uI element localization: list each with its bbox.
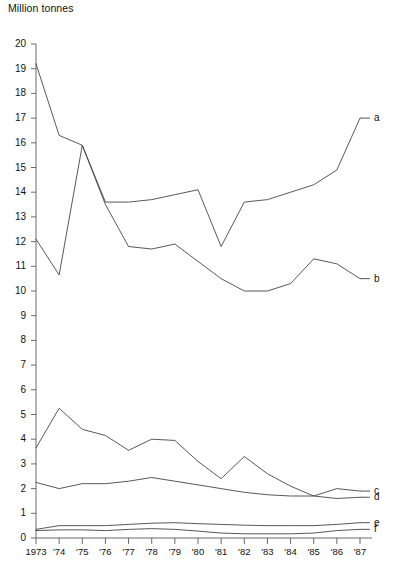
y-tick-label: 0	[4, 533, 26, 543]
y-tick-label: 15	[4, 163, 26, 173]
x-tick-label: '76	[99, 547, 111, 557]
series-line-f	[36, 529, 360, 534]
y-tick-label: 18	[4, 88, 26, 98]
x-tick-label: '84	[284, 547, 296, 557]
line-chart: Million tonnes 0123456789101112131415161…	[0, 0, 396, 571]
plot-area	[0, 0, 396, 571]
x-tick-label: 1973	[25, 547, 46, 557]
series-line-a	[36, 64, 360, 247]
series-label-b: b	[374, 274, 380, 284]
y-tick-label: 7	[4, 360, 26, 370]
y-tick-label: 20	[4, 39, 26, 49]
y-tick-label: 9	[4, 311, 26, 321]
y-tick-label: 19	[4, 64, 26, 74]
y-tick-label: 8	[4, 335, 26, 345]
series-line-c	[36, 408, 360, 496]
y-tick-label: 12	[4, 237, 26, 247]
x-tick-label: '81	[215, 547, 227, 557]
y-tick-label: 3	[4, 459, 26, 469]
y-tick-label: 4	[4, 434, 26, 444]
x-tick-label: '87	[354, 547, 366, 557]
axis-spine	[36, 44, 372, 538]
x-tick-label: '86	[331, 547, 343, 557]
y-tick-label: 16	[4, 138, 26, 148]
y-tick-label: 14	[4, 187, 26, 197]
y-tick-label: 10	[4, 286, 26, 296]
y-tick-label: 17	[4, 113, 26, 123]
x-tick-label: '82	[238, 547, 250, 557]
y-tick-label: 11	[4, 261, 26, 271]
y-tick-label: 1	[4, 508, 26, 518]
x-tick-label: '78	[146, 547, 158, 557]
series-label-d: d	[374, 492, 380, 502]
x-tick-label: '74	[53, 547, 65, 557]
series-label-f: f	[374, 524, 377, 534]
x-tick-label: '80	[192, 547, 204, 557]
x-tick-label: '77	[122, 547, 134, 557]
x-tick-label: '85	[308, 547, 320, 557]
y-tick-label: 5	[4, 410, 26, 420]
series-line-e	[36, 523, 360, 530]
y-tick-label: 6	[4, 385, 26, 395]
series-line-b	[36, 145, 360, 291]
x-tick-label: '75	[76, 547, 88, 557]
x-tick-label: '83	[261, 547, 273, 557]
x-tick-label: '79	[169, 547, 181, 557]
series-label-a: a	[374, 113, 380, 123]
y-tick-label: 2	[4, 484, 26, 494]
y-tick-label: 13	[4, 212, 26, 222]
